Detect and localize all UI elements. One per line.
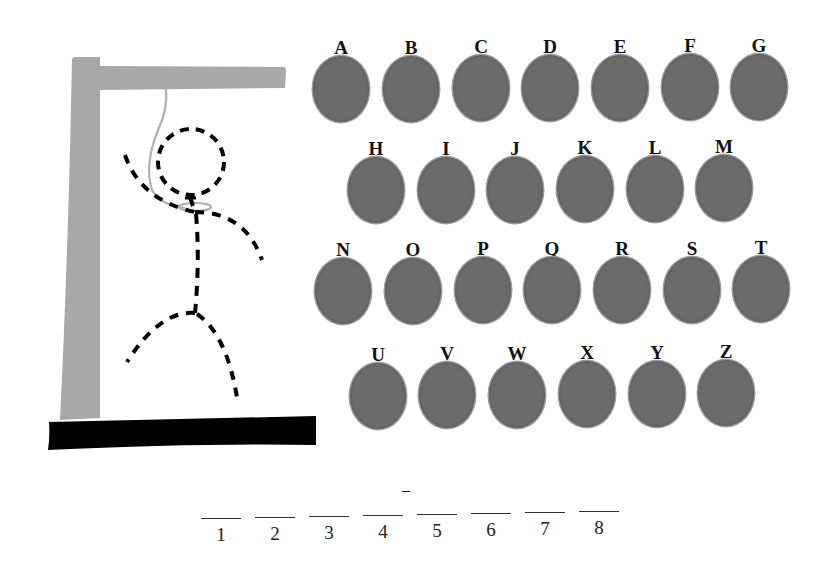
letter-key-b[interactable]: B bbox=[381, 38, 441, 122]
letter-key-oval[interactable] bbox=[350, 363, 406, 429]
letter-key-oval[interactable] bbox=[559, 361, 615, 427]
letter-key-oval[interactable] bbox=[419, 362, 475, 428]
rope bbox=[149, 88, 185, 208]
letter-key-f[interactable]: F bbox=[660, 36, 720, 120]
letter-key-r[interactable]: R bbox=[592, 239, 652, 323]
letter-key-oval[interactable] bbox=[627, 156, 683, 222]
letter-key-label: Q bbox=[522, 239, 582, 259]
letter-key-label: X bbox=[557, 343, 617, 363]
letter-key-o[interactable]: O bbox=[383, 240, 443, 324]
letter-key-t[interactable]: T bbox=[731, 238, 791, 322]
word-slot-2: 2 bbox=[255, 517, 297, 557]
letter-key-label: T bbox=[731, 238, 791, 258]
slot-underline bbox=[525, 512, 565, 513]
letter-key-oval[interactable] bbox=[453, 55, 509, 121]
letter-key-n[interactable]: N bbox=[313, 240, 373, 324]
letter-key-e[interactable]: E bbox=[590, 37, 650, 121]
gallows-drawing bbox=[0, 0, 340, 470]
letter-key-g[interactable]: G bbox=[729, 36, 789, 120]
letter-key-u[interactable]: U bbox=[348, 345, 408, 429]
slot-underline bbox=[363, 515, 403, 516]
letter-key-label: S bbox=[662, 239, 722, 259]
letter-key-m[interactable]: M bbox=[694, 137, 754, 221]
word-slot-8: 8 bbox=[579, 511, 621, 551]
letter-key-label: G bbox=[729, 36, 789, 56]
letter-key-label: V bbox=[417, 344, 477, 364]
letter-key-h[interactable]: H bbox=[346, 139, 406, 223]
slot-number: 2 bbox=[255, 523, 295, 545]
letter-key-oval[interactable] bbox=[313, 56, 369, 122]
letter-key-oval[interactable] bbox=[315, 258, 371, 324]
letter-key-label: I bbox=[416, 139, 476, 159]
letter-key-y[interactable]: Y bbox=[627, 343, 687, 427]
letter-key-oval[interactable] bbox=[664, 257, 720, 323]
figure-left-leg bbox=[127, 313, 195, 362]
slot-number: 1 bbox=[201, 524, 241, 546]
letter-key-w[interactable]: W bbox=[487, 344, 547, 428]
letter-key-oval[interactable] bbox=[455, 257, 511, 323]
letter-key-oval[interactable] bbox=[487, 157, 543, 223]
letter-key-oval[interactable] bbox=[731, 54, 787, 120]
letter-key-label: Y bbox=[627, 343, 687, 363]
letter-key-q[interactable]: Q bbox=[522, 239, 582, 323]
slot-underline bbox=[201, 518, 241, 519]
slot-underline bbox=[579, 511, 619, 512]
letter-key-v[interactable]: V bbox=[417, 344, 477, 428]
figure-right-arm bbox=[195, 212, 262, 260]
letter-key-z[interactable]: Z bbox=[696, 342, 756, 426]
letter-key-oval[interactable] bbox=[696, 155, 752, 221]
letter-key-oval[interactable] bbox=[489, 362, 545, 428]
slot-number: 6 bbox=[471, 519, 511, 541]
letter-key-oval[interactable] bbox=[524, 257, 580, 323]
figure-right-leg bbox=[197, 314, 238, 404]
hint-mark: – bbox=[402, 481, 410, 499]
letter-key-label: H bbox=[346, 139, 406, 159]
letter-key-oval[interactable] bbox=[662, 54, 718, 120]
letter-key-x[interactable]: X bbox=[557, 343, 617, 427]
slot-underline bbox=[309, 516, 349, 517]
letter-key-oval[interactable] bbox=[385, 258, 441, 324]
letter-key-l[interactable]: L bbox=[625, 138, 685, 222]
letter-key-a[interactable]: A bbox=[311, 38, 371, 122]
letter-key-oval[interactable] bbox=[522, 55, 578, 121]
word-slot-6: 6 bbox=[471, 513, 513, 553]
word-slot-3: 3 bbox=[309, 516, 351, 556]
letter-key-oval[interactable] bbox=[629, 361, 685, 427]
slot-underline bbox=[255, 517, 295, 518]
letter-key-oval[interactable] bbox=[418, 157, 474, 223]
letter-key-label: F bbox=[660, 36, 720, 56]
letter-key-oval[interactable] bbox=[698, 360, 754, 426]
letter-key-oval[interactable] bbox=[348, 157, 404, 223]
letter-key-label: K bbox=[555, 138, 615, 158]
gallows-base bbox=[48, 416, 316, 450]
slot-underline bbox=[417, 514, 457, 515]
letter-key-label: U bbox=[348, 345, 408, 365]
letter-key-oval[interactable] bbox=[733, 256, 789, 322]
letter-key-oval[interactable] bbox=[383, 56, 439, 122]
letter-key-oval[interactable] bbox=[594, 257, 650, 323]
letter-key-k[interactable]: K bbox=[555, 138, 615, 222]
figure-body bbox=[195, 214, 198, 313]
slot-number: 7 bbox=[525, 518, 565, 540]
letter-key-label: J bbox=[485, 139, 545, 159]
word-slot-5: 5 bbox=[417, 514, 459, 554]
letter-key-label: E bbox=[590, 37, 650, 57]
letter-key-label: O bbox=[383, 240, 443, 260]
letter-key-i[interactable]: I bbox=[416, 139, 476, 223]
slot-number: 5 bbox=[417, 520, 457, 542]
letter-key-d[interactable]: D bbox=[520, 37, 580, 121]
slot-underline bbox=[471, 513, 511, 514]
letter-key-label: B bbox=[381, 38, 441, 58]
letter-key-j[interactable]: J bbox=[485, 139, 545, 223]
letter-key-oval[interactable] bbox=[557, 156, 613, 222]
letter-key-p[interactable]: P bbox=[453, 239, 513, 323]
letter-key-label: Z bbox=[696, 342, 756, 362]
word-slot-4: 4 bbox=[363, 515, 405, 555]
letter-key-s[interactable]: S bbox=[662, 239, 722, 323]
letter-key-oval[interactable] bbox=[592, 55, 648, 121]
word-slot-1: 1 bbox=[201, 518, 243, 558]
slot-number: 3 bbox=[309, 522, 349, 544]
gallows-post bbox=[60, 57, 100, 420]
letter-key-c[interactable]: C bbox=[451, 37, 511, 121]
letter-key-label: A bbox=[311, 38, 371, 58]
